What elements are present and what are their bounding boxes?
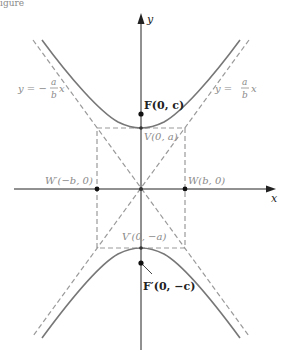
focus-bottom-leader bbox=[143, 265, 152, 274]
figure-caption-fragment: igure bbox=[0, 0, 24, 8]
w-right-point bbox=[183, 187, 188, 192]
vertex-bottom-point bbox=[139, 246, 143, 250]
svg-text:y =: y = bbox=[214, 83, 232, 94]
vertex-top-point bbox=[139, 126, 143, 130]
svg-text:a: a bbox=[51, 77, 56, 87]
svg-text:b: b bbox=[51, 90, 57, 100]
svg-text:y = −: y = − bbox=[17, 83, 47, 94]
asymptote-right-label: y = a b x bbox=[214, 77, 257, 100]
svg-text:x: x bbox=[251, 83, 257, 94]
focus-bottom-point bbox=[138, 260, 143, 265]
focus-top-label: F(0, c) bbox=[144, 99, 184, 112]
focus-top-point bbox=[138, 111, 143, 116]
svg-text:a: a bbox=[242, 77, 247, 87]
y-axis-label: y bbox=[146, 13, 154, 26]
vertex-bottom-label: V′(0, −a) bbox=[122, 231, 166, 242]
w-right-label: W(b, 0) bbox=[188, 175, 225, 186]
y-axis-arrow-icon bbox=[138, 13, 145, 24]
w-left-point bbox=[95, 187, 100, 192]
hyperbola-diagram: igure x y F(0, c) V(0, a) W′(−b, 0) W(b,… bbox=[0, 0, 283, 352]
origin-point bbox=[139, 187, 143, 191]
svg-text:x: x bbox=[59, 83, 65, 94]
focus-bottom-label: F′(0, −c) bbox=[143, 280, 195, 293]
vertex-top-label: V(0, a) bbox=[144, 131, 178, 142]
w-left-label: W′(−b, 0) bbox=[45, 175, 93, 186]
svg-text:b: b bbox=[242, 90, 248, 100]
asymptote-left-label: y = − a b x bbox=[17, 77, 65, 100]
x-axis-label: x bbox=[271, 192, 278, 205]
